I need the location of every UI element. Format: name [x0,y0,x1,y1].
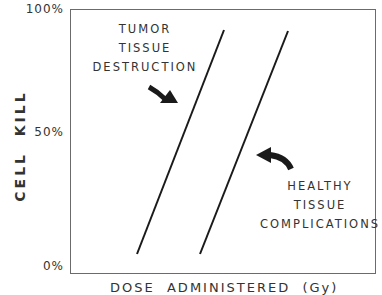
tumor-destruction-line [137,30,224,254]
curved-arrow-left-icon [256,147,291,169]
curved-arrow-right-icon [149,87,178,103]
healthy-complications-line [200,31,288,254]
